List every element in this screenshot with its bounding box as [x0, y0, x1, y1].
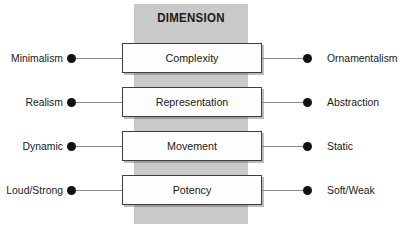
right-pole-label: Ornamentalism [327, 43, 398, 73]
dimension-band-title: DIMENSION [139, 10, 244, 26]
left-pole-label: Realism [4, 87, 63, 117]
left-pole-label: Minimalism [4, 43, 63, 73]
left-pole-label: Dynamic [4, 131, 63, 161]
right-pole-dot [303, 54, 312, 63]
left-connector-line [76, 102, 123, 103]
left-pole-dot [67, 142, 76, 151]
dimension-box[interactable]: Movement [122, 131, 262, 161]
left-connector-line [76, 146, 123, 147]
dimension-row: Realism Representation Abstraction [0, 87, 403, 117]
dimension-box-label: Complexity [127, 44, 257, 72]
dimension-box-label: Representation [127, 88, 257, 116]
left-pole-dot [67, 186, 76, 195]
right-pole-label: Soft/Weak [327, 175, 398, 205]
dimension-row: Dynamic Movement Static [0, 131, 403, 161]
dimension-box[interactable]: Potency [122, 175, 262, 205]
right-connector-line [262, 58, 304, 59]
dimension-box[interactable]: Complexity [122, 43, 262, 73]
left-pole-label: Loud/Strong [4, 175, 63, 205]
right-connector-line [262, 146, 304, 147]
dimension-box-label: Potency [127, 176, 257, 204]
right-connector-line [262, 102, 304, 103]
right-connector-line [262, 190, 304, 191]
left-connector-line [76, 58, 123, 59]
right-pole-label: Static [327, 131, 398, 161]
dimension-box[interactable]: Representation [122, 87, 262, 117]
left-pole-dot [67, 54, 76, 63]
right-pole-dot [303, 186, 312, 195]
dimension-row: Loud/Strong Potency Soft/Weak [0, 175, 403, 205]
dimension-diagram: DIMENSION Minimalism Complexity Ornament… [0, 0, 403, 232]
right-pole-label: Abstraction [327, 87, 398, 117]
dimension-row: Minimalism Complexity Ornamentalism [0, 43, 403, 73]
right-pole-dot [303, 98, 312, 107]
left-connector-line [76, 190, 123, 191]
right-pole-dot [303, 142, 312, 151]
left-pole-dot [67, 98, 76, 107]
dimension-box-label: Movement [127, 132, 257, 160]
